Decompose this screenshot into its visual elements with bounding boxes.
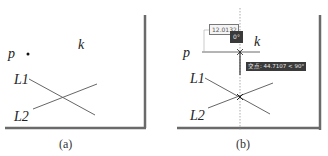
label-L1-b: L1 [190,72,205,86]
caption-b: (b) [236,137,250,152]
diagram-canvas [0,0,328,156]
label-k-b: k [254,35,260,49]
tracking-tooltip: 交点: 44.7107 < 90° [246,62,306,71]
line-L1-b [205,78,270,114]
label-L2-a: L2 [14,110,29,124]
angle-box: 0° [230,31,243,43]
point-p-a [27,53,30,56]
label-p-b: p [183,46,190,60]
label-k-a: k [78,38,84,52]
label-L2-b: L2 [190,109,205,123]
line-L1-a [29,79,95,115]
line-L2-b [208,83,273,108]
label-L1-a: L1 [14,73,29,87]
caption-a: (a) [59,137,72,152]
line-L2-a [33,84,97,109]
label-p-a: p [8,47,15,61]
